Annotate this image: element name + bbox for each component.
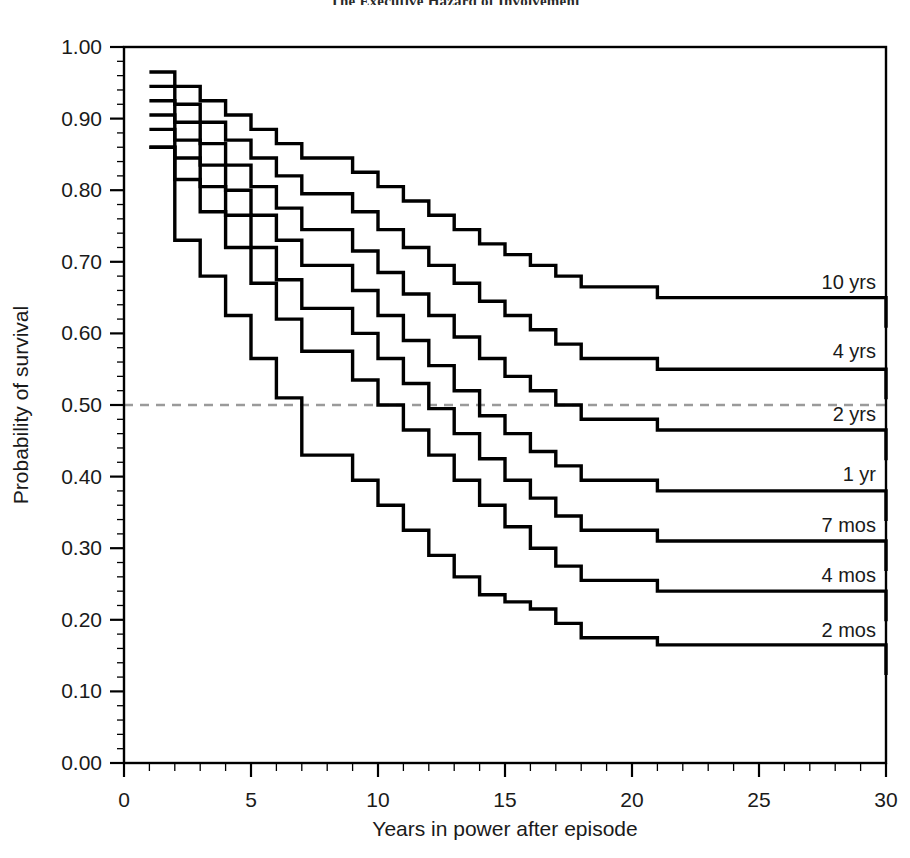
survival-curve [149,115,886,521]
axis-ticks-group: 0510152025300.000.100.200.300.400.500.60… [61,35,898,811]
curve-label: 4 yrs [833,340,876,362]
x-tick-label: 25 [747,788,770,811]
y-tick-label: 0.90 [61,107,102,130]
y-tick-label: 0.60 [61,321,102,344]
curve-label: 2 mos [822,619,876,641]
y-tick-label: 0.00 [61,751,102,774]
survival-curve [149,86,886,399]
x-tick-label: 5 [245,788,257,811]
y-tick-label: 1.00 [61,35,102,58]
curve-labels-group: 10 yrs4 yrs2 yrs1 yr7 mos4 mos2 mos [822,271,877,641]
y-tick-label: 0.40 [61,465,102,488]
curve-label: 1 yr [843,463,877,485]
survival-curve [149,72,886,328]
x-tick-label: 15 [493,788,516,811]
survival-curve [149,129,886,571]
curve-label: 10 yrs [822,271,876,293]
survival-plot: Years in power after episode Probability… [0,0,910,858]
survival-chart-figure: The Executive Hazard of Involvement Year… [0,0,910,858]
y-axis-title: Probability of survival [9,306,32,504]
survival-curves-group [149,72,886,675]
y-tick-label: 0.20 [61,608,102,631]
y-tick-label: 0.10 [61,679,102,702]
x-tick-label: 30 [874,788,897,811]
y-tick-label: 0.70 [61,250,102,273]
y-tick-label: 0.50 [61,393,102,416]
survival-curve [149,147,886,621]
curve-label: 7 mos [822,514,876,536]
x-tick-label: 10 [366,788,389,811]
x-tick-label: 20 [620,788,643,811]
x-tick-label: 0 [118,788,130,811]
x-axis-title: Years in power after episode [372,817,637,840]
y-tick-label: 0.30 [61,536,102,559]
curve-label: 2 yrs [833,403,876,425]
y-tick-label: 0.80 [61,178,102,201]
curve-label: 4 mos [822,564,876,586]
survival-curve [149,147,886,675]
